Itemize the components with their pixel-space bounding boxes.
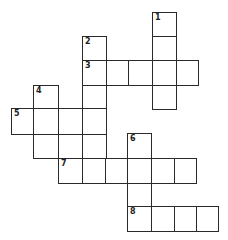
clue-number: 4 (36, 87, 42, 95)
crossword-cell[interactable] (128, 60, 153, 86)
clue-number: 5 (14, 110, 20, 118)
crossword-cell[interactable] (152, 60, 177, 86)
crossword-cell[interactable] (82, 134, 107, 159)
crossword-cell[interactable] (176, 60, 199, 86)
crossword-cell[interactable] (127, 158, 152, 184)
crossword-cell[interactable]: 7 (58, 158, 83, 184)
clue-number: 2 (85, 38, 91, 46)
crossword-cell[interactable] (152, 36, 177, 61)
crossword-cell[interactable]: 8 (127, 206, 152, 232)
crossword-cell[interactable]: 4 (33, 85, 59, 110)
crossword-cell[interactable] (127, 183, 152, 208)
crossword-cell[interactable]: 5 (11, 108, 34, 135)
crossword-grid: 12345678 (0, 0, 228, 240)
crossword-cell[interactable]: 3 (82, 60, 107, 86)
crossword-cell[interactable] (58, 134, 83, 159)
crossword-cell[interactable] (33, 108, 59, 135)
crossword-cell[interactable]: 1 (152, 12, 177, 37)
crossword-cell[interactable] (33, 134, 59, 159)
clue-number: 3 (85, 62, 91, 70)
crossword-cell[interactable] (151, 158, 175, 184)
crossword-cell[interactable] (82, 85, 107, 110)
clue-number: 8 (130, 208, 136, 216)
crossword-cell[interactable]: 2 (82, 36, 107, 61)
crossword-cell[interactable] (152, 85, 177, 110)
crossword-cell[interactable] (82, 108, 107, 135)
crossword-cell[interactable] (58, 108, 83, 135)
clue-number: 1 (155, 14, 161, 22)
crossword-cell[interactable] (82, 158, 106, 184)
crossword-cell[interactable]: 6 (127, 133, 152, 159)
clue-number: 7 (61, 160, 67, 168)
crossword-cell[interactable] (151, 206, 175, 232)
crossword-cell[interactable] (106, 60, 129, 86)
crossword-cell[interactable] (105, 158, 128, 184)
crossword-cell[interactable] (174, 206, 197, 232)
crossword-cell[interactable] (196, 206, 219, 232)
crossword-cell[interactable] (174, 158, 197, 184)
clue-number: 6 (130, 135, 136, 143)
